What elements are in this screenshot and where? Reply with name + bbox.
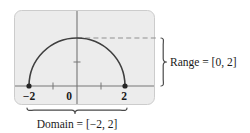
x-tick-label-zero: 0 xyxy=(66,90,72,102)
plot-area-panel xyxy=(15,11,155,105)
range-annotation-label: Range = [0, 2] xyxy=(170,56,237,69)
domain-brace xyxy=(27,108,127,114)
semicircle-figure: −2 0 2 Range = [0, 2] Domain = [−2, 2] xyxy=(0,0,250,133)
x-tick-label-minus-two: −2 xyxy=(23,90,36,102)
endpoint-dot-right xyxy=(122,83,127,88)
figure-container: −2 0 2 Range = [0, 2] Domain = [−2, 2] xyxy=(0,0,250,133)
endpoint-dot-left xyxy=(26,83,31,88)
range-brace xyxy=(161,38,167,86)
domain-annotation-label: Domain = [−2, 2] xyxy=(37,118,118,131)
x-tick-label-two: 2 xyxy=(121,90,127,102)
